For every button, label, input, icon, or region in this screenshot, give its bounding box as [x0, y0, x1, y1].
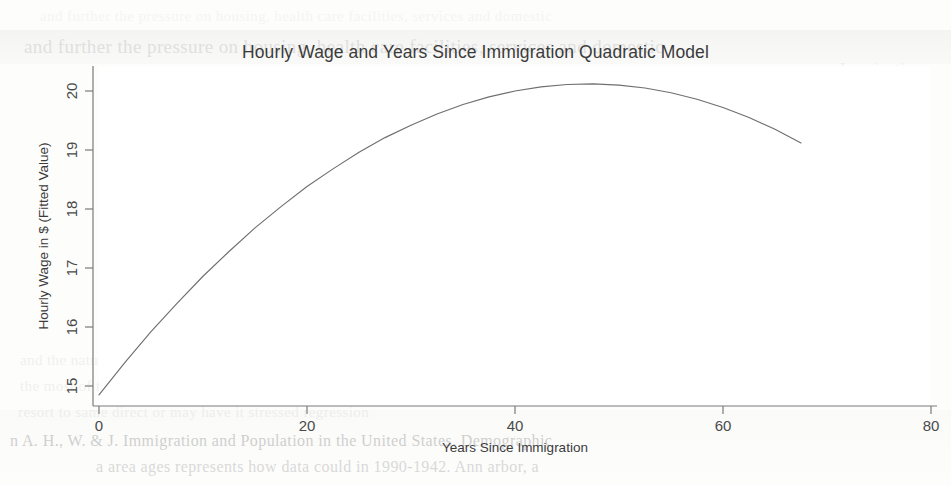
x-tick-label-80: 80: [923, 417, 940, 434]
y-tick-label-17: 17: [63, 260, 80, 277]
plot-area-background: [99, 66, 931, 406]
y-tick-label-18: 18: [63, 201, 80, 218]
x-tick-label-20: 20: [299, 417, 316, 434]
x-tick-label-60: 60: [715, 417, 732, 434]
y-tick-label-15: 15: [63, 378, 80, 395]
y-tick-label-16: 16: [63, 319, 80, 336]
y-axis-title: Hourly Wage in $ (Fitted Value): [36, 143, 51, 330]
x-axis-title: Years Since Immigration: [442, 440, 588, 455]
x-tick-label-40: 40: [507, 417, 524, 434]
x-axis-ticks: 0 20 40 60 80: [95, 406, 940, 434]
y-tick-label-20: 20: [63, 83, 80, 100]
quadratic-fit-plot: 15 16 17 18 19 20 0 20 40 60 80 Hourly W…: [0, 0, 951, 485]
y-tick-label-19: 19: [63, 142, 80, 159]
chart-figure: Hourly Wage and Years Since Immigration …: [0, 0, 951, 485]
x-tick-label-0: 0: [95, 417, 103, 434]
y-axis-ticks: 15 16 17 18 19 20: [63, 83, 93, 395]
